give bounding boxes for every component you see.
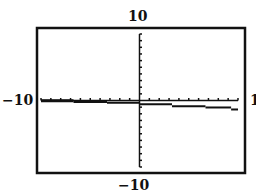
graph-screen — [0, 0, 256, 196]
